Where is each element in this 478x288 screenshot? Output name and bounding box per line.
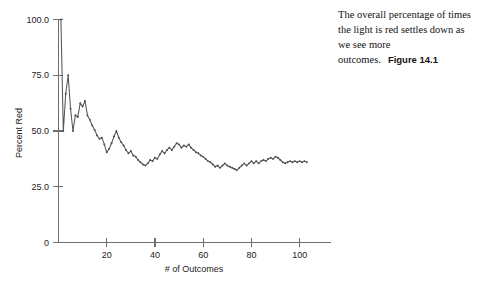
- data-point: [277, 157, 279, 159]
- data-point: [236, 169, 238, 171]
- data-point: [101, 137, 103, 139]
- figure-number: Figure 14.1: [388, 54, 438, 65]
- data-point: [291, 161, 293, 163]
- figure-caption: The overall percentage of times the ligh…: [338, 7, 474, 67]
- x-tick-label: 60: [198, 250, 208, 260]
- data-point: [243, 162, 245, 164]
- data-point: [149, 159, 151, 161]
- data-point: [279, 159, 281, 161]
- data-point: [190, 147, 192, 149]
- data-point: [241, 165, 243, 167]
- data-point: [260, 160, 262, 162]
- y-tick-label: 100.0: [26, 15, 49, 25]
- data-point: [287, 161, 289, 163]
- data-point: [255, 160, 257, 162]
- x-tick-label: 80: [246, 250, 256, 260]
- data-point: [65, 93, 67, 95]
- data-point: [144, 165, 146, 167]
- data-point: [152, 160, 154, 162]
- data-point: [214, 166, 216, 168]
- data-point: [229, 166, 231, 168]
- data-point: [212, 164, 214, 166]
- data-point: [118, 137, 120, 139]
- data-point: [248, 162, 250, 164]
- y-axis-ticks: 025.050.075.0100.0: [26, 15, 62, 248]
- data-point: [106, 151, 108, 153]
- data-point: [197, 152, 199, 154]
- data-point: [217, 165, 219, 167]
- data-point: [113, 136, 115, 138]
- data-point: [154, 157, 156, 159]
- data-point: [74, 114, 76, 116]
- data-point: [173, 146, 175, 148]
- data-point: [234, 168, 236, 170]
- data-point: [123, 145, 125, 147]
- data-point: [82, 106, 84, 108]
- data-point: [120, 141, 122, 143]
- data-point: [301, 161, 303, 163]
- data-point: [304, 160, 306, 162]
- data-point: [289, 160, 291, 162]
- data-point: [103, 143, 105, 145]
- data-point: [111, 142, 113, 144]
- data-point: [253, 162, 255, 164]
- data-point: [135, 156, 137, 158]
- x-tick-label: 40: [150, 250, 160, 260]
- percent-red-line-chart: 025.050.075.0100.0 20406080100 # of Outc…: [0, 0, 340, 288]
- data-point: [142, 164, 144, 166]
- y-axis-title: Percent Red: [14, 108, 24, 158]
- data-point: [176, 142, 178, 144]
- data-point: [70, 108, 72, 110]
- data-point: [294, 160, 296, 162]
- data-point: [164, 152, 166, 154]
- data-point: [181, 147, 183, 149]
- data-point: [306, 161, 308, 163]
- data-point: [195, 151, 197, 153]
- data-point: [89, 119, 91, 121]
- data-point: [132, 155, 134, 157]
- data-point: [171, 149, 173, 151]
- data-point: [108, 148, 110, 150]
- data-point: [205, 158, 207, 160]
- data-point: [226, 165, 228, 167]
- data-point: [246, 165, 248, 167]
- data-point: [130, 150, 132, 152]
- data-point: [209, 161, 211, 163]
- data-point: [156, 158, 158, 160]
- data-point: [166, 149, 168, 151]
- x-tick-label: 100: [292, 250, 307, 260]
- data-point: [284, 162, 286, 164]
- data-point: [224, 162, 226, 164]
- data-point: [115, 130, 117, 132]
- data-point: [125, 149, 127, 151]
- data-point: [238, 167, 240, 169]
- data-point: [84, 100, 86, 102]
- data-point: [299, 160, 301, 162]
- data-point: [265, 160, 267, 162]
- data-point: [67, 74, 69, 76]
- data-point: [202, 156, 204, 158]
- data-point: [231, 167, 233, 169]
- data-point: [96, 135, 98, 137]
- data-point: [147, 162, 149, 164]
- data-point: [140, 161, 142, 163]
- data-point: [275, 156, 277, 158]
- data-point: [94, 129, 96, 131]
- data-point: [62, 130, 64, 132]
- figure-container: 025.050.075.0100.0 20406080100 # of Outc…: [0, 0, 340, 288]
- data-point: [188, 143, 190, 145]
- data-point: [77, 116, 79, 118]
- data-point: [72, 130, 74, 132]
- data-point: [219, 167, 221, 169]
- data-point: [99, 138, 101, 140]
- y-tick-label: 0: [44, 238, 49, 248]
- data-point: [127, 152, 129, 154]
- data-point: [267, 158, 269, 160]
- y-tick-label: 50.0: [31, 126, 49, 136]
- data-point: [270, 157, 272, 159]
- data-point: [86, 114, 88, 116]
- series-markers-percent-red: [60, 19, 308, 171]
- data-point: [91, 124, 93, 126]
- data-point: [159, 153, 161, 155]
- x-axis-ticks: 20406080100: [102, 238, 307, 260]
